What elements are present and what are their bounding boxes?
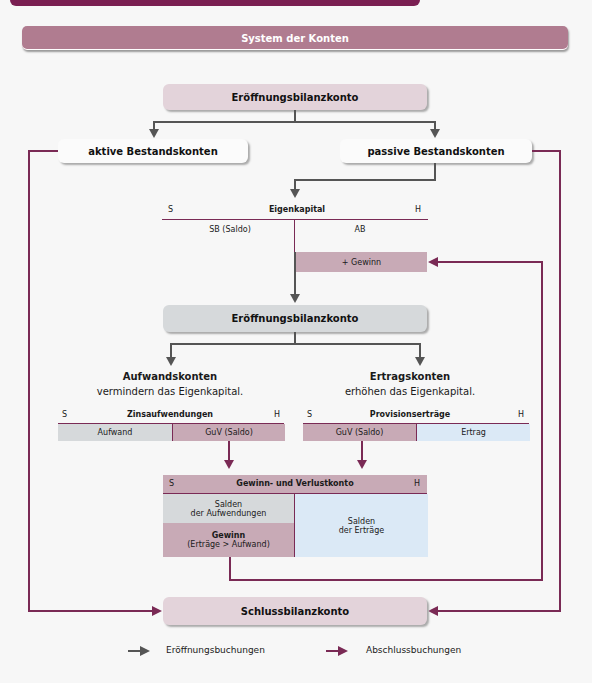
debit-label: S <box>169 479 174 488</box>
arrow-left-icon <box>428 606 438 616</box>
arrow-left-icon <box>428 257 438 267</box>
closing-line <box>28 610 153 612</box>
closing-line <box>29 150 58 152</box>
connector <box>170 343 172 358</box>
connector <box>419 343 421 358</box>
legend-line <box>128 650 140 652</box>
cell-text: Gewinn <box>212 531 246 540</box>
legend-closing: Abschlussbuchungen <box>366 645 461 655</box>
closing-line <box>541 261 543 581</box>
expense-accounts-heading: Aufwandskonten <box>90 371 250 382</box>
arrow-right-icon <box>152 606 162 616</box>
cell-text: Salden <box>215 500 242 509</box>
arrow-down-icon <box>224 460 234 469</box>
arrow-down-icon <box>357 460 367 469</box>
diagram-title: System der Konten <box>22 26 568 50</box>
revenue-accounts-description: erhöhen das Eigenkapital. <box>320 386 500 397</box>
passive-asset-accounts: passive Bestandskonten <box>340 139 532 163</box>
opening-balance-account-mid: Eröffnungsbilanzkonto <box>163 305 427 332</box>
pl-balance-entry: GuV (Saldo) <box>303 424 416 441</box>
closing-line <box>559 150 561 611</box>
opening-balance-account-top: Eröffnungsbilanzkonto <box>163 84 427 110</box>
cell-text: (Erträge > Aufwand) <box>187 540 270 549</box>
legend-opening: Eröffnungsbuchungen <box>166 645 265 655</box>
active-asset-accounts: aktive Bestandskonten <box>58 139 248 163</box>
credit-label: H <box>518 410 524 419</box>
connector <box>294 179 296 189</box>
closing-balance-account: Schlussbilanzkonto <box>163 597 427 625</box>
profit-cell: Gewinn (Erträge > Aufwand) <box>163 523 294 557</box>
closing-line <box>229 557 231 581</box>
expense-balances-cell: Salden der Aufwendungen <box>163 494 294 523</box>
pl-balance-entry: GuV (Saldo) <box>172 424 285 441</box>
cell-text: der Aufwendungen <box>191 509 267 518</box>
commission-income-title: Provisionserträge <box>350 410 470 419</box>
credit-label: H <box>415 205 421 214</box>
t-account-line <box>162 219 428 220</box>
cell-text: der Erträge <box>339 526 385 535</box>
expense-accounts-description: vermindern das Eigenkapital. <box>70 386 270 397</box>
closing-line <box>438 610 561 612</box>
closing-line <box>361 441 363 461</box>
closing-balance-entry: SB (Saldo) <box>200 225 260 234</box>
credit-label: H <box>414 479 420 488</box>
debit-label: S <box>62 410 67 419</box>
connector <box>170 343 421 345</box>
arrow-down-icon <box>290 294 300 303</box>
revenue-accounts-heading: Ertragskonten <box>330 371 490 382</box>
income-entry: Ertrag <box>416 424 530 441</box>
arrow-down-icon <box>415 357 425 366</box>
closing-line <box>28 150 30 611</box>
closing-arrow-icon <box>338 646 348 656</box>
top-banner <box>10 0 420 6</box>
equity-account-title: Eigenkapital <box>262 205 332 214</box>
arrow-down-icon <box>290 189 300 198</box>
t-account-line <box>294 219 295 252</box>
opening-balance-entry: AB <box>340 225 380 234</box>
closing-line <box>438 261 542 263</box>
income-balances-cell: Salden der Erträge <box>294 494 428 557</box>
closing-line <box>229 579 543 581</box>
debit-label: S <box>307 410 312 419</box>
profit-entry: + Gewinn <box>296 252 427 272</box>
opening-arrow-icon <box>140 646 150 656</box>
pl-account-title: Gewinn- und Verlustkonto <box>215 479 375 488</box>
interest-expense-title: Zinsaufwendungen <box>110 410 230 419</box>
arrow-down-icon <box>166 357 176 366</box>
credit-label: H <box>274 410 280 419</box>
debit-label: S <box>168 205 173 214</box>
closing-line <box>532 150 561 152</box>
arrow-down-icon <box>430 129 440 138</box>
cell-text: Salden <box>348 517 375 526</box>
connector <box>294 252 296 295</box>
closing-line <box>228 441 230 461</box>
expense-entry: Aufwand <box>58 424 172 441</box>
connector <box>294 179 436 181</box>
arrow-down-icon <box>149 129 159 138</box>
legend-line <box>326 650 338 652</box>
connector <box>153 121 436 123</box>
